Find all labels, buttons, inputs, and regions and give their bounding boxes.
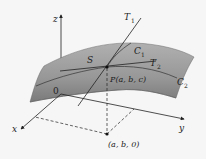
point-projection: [105, 132, 108, 135]
tangent-plane-diagram: z x y 0 S T 1 T 2 C 1 C 2 P(a, b, c) (a,…: [0, 0, 206, 159]
curve1-label: C: [134, 46, 141, 56]
z-axis-label: z: [52, 14, 58, 24]
point-p-label: P(a, b, c): [109, 75, 146, 84]
curve2-label: C: [177, 77, 184, 87]
projection-x: [35, 117, 107, 134]
tangent2-label: T: [150, 58, 157, 68]
tangent2-subscript: 2: [157, 63, 161, 70]
x-axis-label: x: [12, 124, 17, 134]
tangent1-subscript: 1: [131, 17, 135, 24]
y-axis: [61, 94, 184, 119]
tangent1-label: T: [124, 12, 131, 22]
projection-y: [107, 109, 134, 134]
projection-label: (a, b, 0): [108, 140, 139, 149]
curve2-subscript: 2: [184, 82, 188, 89]
point-p: [105, 65, 108, 68]
surface-label: S: [87, 55, 93, 65]
diagram-canvas: z x y 0 S T 1 T 2 C 1 C 2 P(a, b, c) (a,…: [0, 0, 206, 159]
curve1-subscript: 1: [141, 51, 145, 58]
origin-label: 0: [53, 86, 59, 96]
y-axis-label: y: [178, 123, 185, 133]
